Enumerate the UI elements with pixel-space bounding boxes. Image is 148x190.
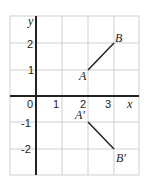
y-tick-1: 1	[28, 64, 34, 76]
point-label-B-prime: B'	[116, 151, 126, 165]
x-axis-label: x	[126, 97, 133, 111]
segment-A-prime-B-prime	[88, 122, 114, 149]
coordinate-plane: y x 0 1 2 3 2 1 -1 -2 A B A' B'	[0, 0, 148, 190]
x-tick-0: 0	[27, 98, 33, 110]
y-tick-neg1: -1	[21, 117, 31, 129]
y-tick-neg2: -2	[21, 143, 31, 155]
point-label-A-prime: A'	[74, 108, 85, 122]
x-tick-3: 3	[105, 98, 111, 110]
x-tick-1: 1	[53, 98, 59, 110]
point-label-B: B	[115, 31, 123, 45]
y-tick-2: 2	[27, 38, 33, 50]
point-label-A: A	[78, 69, 87, 83]
y-axis-label: y	[27, 14, 34, 28]
segment-AB	[88, 43, 114, 70]
